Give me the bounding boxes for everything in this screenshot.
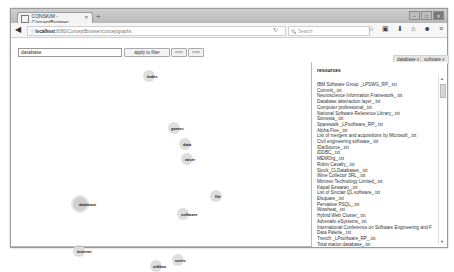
resources-scrollbar[interactable]: ▲ ▼: [438, 76, 445, 244]
browser-window: CONSKIM - ConceptBrowser × + – □ × ◀ ⓘ l…: [10, 8, 448, 248]
next-button[interactable]: >>>: [188, 48, 204, 57]
url-host: localhost: [35, 29, 55, 34]
filter-input[interactable]: database: [18, 48, 122, 57]
node-label: users: [175, 258, 186, 263]
resources-list: IBM Software Group _LPSWG_RP_.txt Commit…: [317, 82, 435, 247]
window-controls: – □ ×: [409, 11, 444, 20]
reload-icon[interactable]: ↻: [273, 26, 278, 33]
menu-icon[interactable]: ≡: [439, 25, 443, 33]
url-path: :8080/ConceptBrowser/conceptgraphs: [55, 29, 132, 34]
close-window-button[interactable]: ×: [433, 11, 444, 20]
new-tab-button[interactable]: +: [96, 12, 101, 21]
bookmarks-list-icon[interactable]: ▣: [382, 25, 389, 33]
resources-title: resources: [317, 67, 341, 73]
node-label: games: [171, 126, 184, 131]
scroll-up-icon[interactable]: ▲: [440, 76, 444, 81]
nav-icons: ☆ ▣ ⬇ ⌂ ☻ ≡: [368, 25, 443, 33]
scrollbar-thumb[interactable]: [440, 84, 446, 98]
bookmark-star-icon[interactable]: ☆: [368, 25, 374, 33]
node-label: internet: [77, 249, 92, 254]
node-label: file: [215, 194, 221, 199]
maximize-button[interactable]: □: [421, 11, 432, 20]
home-icon[interactable]: ⌂: [411, 25, 415, 33]
resources-panel: resources IBM Software Group _LPSWG_RP_.…: [311, 62, 447, 247]
url-bar[interactable]: ⓘ localhost :8080/ConceptBrowser/concept…: [27, 26, 286, 36]
node-label: software: [181, 212, 197, 217]
search-placeholder: Search: [298, 29, 312, 34]
previous-button[interactable]: <<<: [171, 48, 187, 57]
back-arrow-icon[interactable]: ◀: [15, 25, 21, 34]
resource-item[interactable]: Total station database_.txt: [317, 242, 435, 248]
download-icon[interactable]: ⬇: [397, 25, 403, 33]
nav-bar: ◀ ⓘ localhost :8080/ConceptBrowser/conce…: [11, 23, 447, 38]
scroll-down-icon[interactable]: ▼: [440, 239, 444, 244]
page-content: database apply to filter <<< >>> databas…: [11, 38, 447, 247]
search-input[interactable]: 🔍 Search: [288, 26, 370, 36]
favicon-icon: [21, 15, 29, 23]
node-label: index: [147, 74, 157, 79]
node-label: orkkau: [153, 264, 166, 269]
apply-filter-button[interactable]: apply to filter: [124, 48, 170, 57]
title-bar: CONSKIM - ConceptBrowser × + – □ ×: [11, 9, 447, 23]
node-label: database: [79, 202, 96, 207]
graph-bottom-border: [11, 246, 311, 247]
minimize-button[interactable]: –: [409, 11, 420, 20]
search-icon: 🔍: [291, 29, 298, 34]
account-icon[interactable]: ☻: [424, 25, 431, 33]
node-label: wiser: [185, 157, 195, 162]
node-label: data: [183, 142, 191, 147]
tab-close-icon[interactable]: ×: [84, 14, 88, 20]
